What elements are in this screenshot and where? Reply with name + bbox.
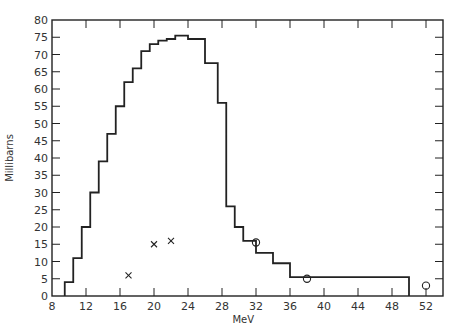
y-tick-label: 0 <box>41 290 48 303</box>
y-tick-label: 55 <box>34 100 48 113</box>
x-tick-label: 52 <box>419 300 433 313</box>
x-tick-label: 44 <box>351 300 365 313</box>
cross-marker <box>168 238 174 244</box>
cross-marker <box>126 272 132 278</box>
x-axis-label: MeV <box>232 314 254 325</box>
y-tick-label: 5 <box>41 273 48 286</box>
y-tick-label: 10 <box>34 256 48 269</box>
y-tick-label: 65 <box>34 66 48 79</box>
y-axis-ticks: 05101520253035404550556065707580 <box>34 14 443 303</box>
x-tick-label: 20 <box>147 300 161 313</box>
plot-border <box>52 20 443 296</box>
x-tick-label: 28 <box>215 300 229 313</box>
y-tick-label: 30 <box>34 187 48 200</box>
chart-canvas: 05101520253035404550556065707580 8121620… <box>0 0 461 331</box>
y-tick-label: 75 <box>34 31 48 44</box>
y-tick-label: 45 <box>34 135 48 148</box>
x-tick-label: 8 <box>49 300 56 313</box>
x-tick-label: 12 <box>79 300 93 313</box>
y-tick-label: 50 <box>34 118 48 131</box>
y-tick-label: 15 <box>34 238 48 251</box>
x-tick-label: 40 <box>317 300 331 313</box>
y-axis-label: Millibarns <box>4 134 15 182</box>
y-tick-label: 40 <box>34 152 48 165</box>
x-tick-label: 36 <box>283 300 297 313</box>
histogram-line <box>65 36 409 296</box>
plot-frame <box>52 20 443 296</box>
y-tick-label: 25 <box>34 204 48 217</box>
y-tick-label: 70 <box>34 49 48 62</box>
y-tick-label: 35 <box>34 169 48 182</box>
x-tick-label: 24 <box>181 300 195 313</box>
x-tick-label: 16 <box>113 300 127 313</box>
x-tick-label: 48 <box>385 300 399 313</box>
y-tick-label: 60 <box>34 83 48 96</box>
x-axis-ticks: 81216202428323640444852 <box>49 20 434 313</box>
cross-marker <box>151 241 157 247</box>
y-tick-label: 80 <box>34 14 48 27</box>
y-tick-label: 20 <box>34 221 48 234</box>
x-tick-label: 32 <box>249 300 263 313</box>
histogram-series <box>65 36 409 296</box>
